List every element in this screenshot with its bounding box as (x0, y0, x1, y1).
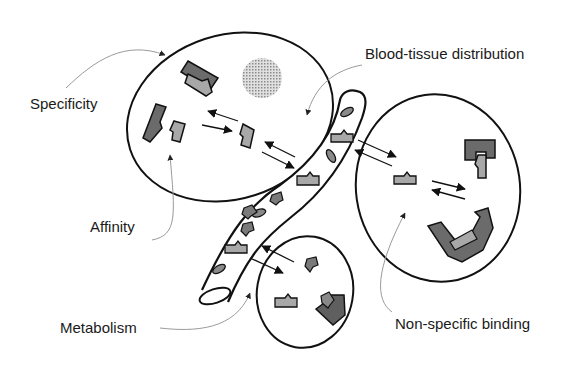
drug-molecule-icon (394, 172, 416, 184)
drug-molecule-icon (275, 294, 297, 307)
label-affinity: Affinity (90, 219, 135, 234)
nucleus (242, 58, 282, 98)
drug-molecule-icon (475, 155, 486, 178)
label-specificity: Specificity (30, 96, 98, 111)
plasma-protein-icon (428, 208, 493, 262)
drug-molecule-icon (240, 124, 254, 148)
blood-vessel (198, 90, 366, 307)
receptor-icon (143, 104, 166, 142)
label-non-specific-binding: Non-specific binding (395, 316, 530, 331)
receptor-complex-icon (181, 61, 218, 96)
cell-right (344, 84, 533, 293)
drug-molecule-icon (170, 121, 185, 142)
cell-top-left (105, 7, 355, 228)
drug-distribution-diagram: Specificity Affinity Blood-tissue distri… (0, 0, 582, 367)
metabolite-icon (305, 257, 318, 272)
label-metabolism: Metabolism (60, 320, 137, 335)
label-blood-tissue-distribution: Blood-tissue distribution (365, 46, 524, 61)
